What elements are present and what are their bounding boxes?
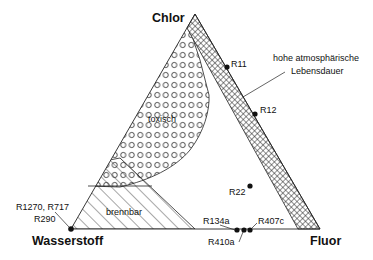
lifetime-leader-line — [243, 72, 285, 97]
point-r11 — [224, 64, 229, 69]
region-label-toxisch: toxisch — [148, 114, 176, 124]
corner-label-fluor: Fluor — [310, 234, 341, 248]
r290-leader — [55, 212, 69, 227]
point-r407c — [247, 227, 252, 232]
point-r290 — [68, 226, 74, 232]
region-label-brennbar: brennbar — [106, 207, 142, 217]
r407c-leader — [252, 223, 257, 228]
toxic-region — [88, 24, 209, 187]
region-label-lifetime-2: Lebensdauer — [291, 66, 344, 76]
label-r290: R290 — [34, 214, 56, 224]
point-r134a — [234, 227, 239, 232]
label-r407c: R407c — [258, 216, 285, 226]
r410a-leader — [239, 232, 243, 242]
label-r134a: R134a — [203, 216, 230, 226]
label-r410a: R410a — [208, 237, 235, 247]
corner-label-wasserstoff: Wasserstoff — [32, 234, 104, 248]
region-label-lifetime-1: hohe atmosphärische — [273, 53, 359, 63]
point-r12 — [252, 111, 257, 116]
lifetime-band — [187, 14, 320, 229]
label-r22: R22 — [229, 187, 246, 197]
label-r12: R12 — [260, 105, 277, 115]
ternary-diagram: Chlor Wasserstoff Fluor toxisch brennbar… — [0, 0, 373, 260]
corner-label-chlor: Chlor — [152, 11, 185, 25]
label-r11: R11 — [231, 59, 247, 69]
point-r22 — [247, 183, 252, 188]
label-r1270-r717: R1270, R717 — [16, 202, 69, 212]
point-r410a — [241, 227, 246, 232]
